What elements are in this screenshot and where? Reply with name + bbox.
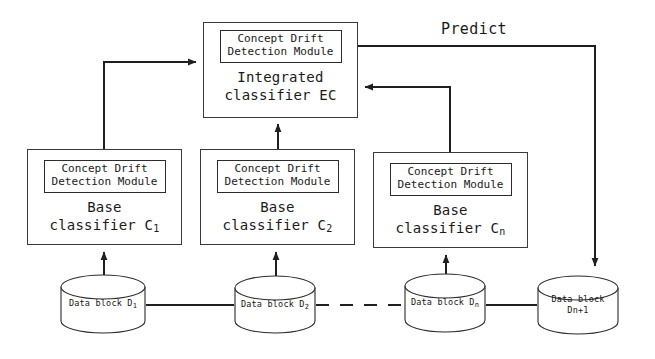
concept-drift-detection-module-c2: Concept Drift Detection Module — [217, 160, 339, 193]
edge-c1-to-ec — [104, 62, 196, 149]
data-block-text: Data block D — [241, 299, 305, 309]
data-block-dn-plus-1-label: Data block Dn+1 — [537, 294, 619, 315]
edge-cn-to-ec — [365, 87, 450, 152]
concept-drift-detection-module-cn: Concept Drift Detection Module — [390, 163, 512, 196]
module-line-2: Detection Module — [45, 176, 165, 189]
data-block-d2-cylinder[interactable]: Data block D2 — [234, 276, 316, 334]
data-block-d2-label: Data block D2 — [234, 299, 316, 310]
base-classifier-c1-caption: Base classifier C1 — [50, 198, 160, 235]
data-block-dn-cylinder[interactable]: Data block Dn — [404, 274, 486, 334]
base-classifier-cn-box[interactable]: Concept Drift Detection Module Base clas… — [373, 152, 528, 248]
caption-text: classifier C — [50, 217, 154, 233]
base-classifier-cn-caption: Base classifier Cn — [396, 201, 506, 238]
classifier-subscript: n — [499, 226, 505, 237]
data-block-text: Data block D — [411, 297, 475, 307]
module-line-2: Detection Module — [391, 179, 511, 192]
caption-line-2: classifier C1 — [50, 216, 160, 234]
data-block-text-2: Dn+1 — [537, 305, 619, 316]
concept-drift-detection-module-c1: Concept Drift Detection Module — [44, 160, 166, 193]
predict-edge-label: Predict — [441, 20, 507, 38]
data-block-text: Data block D — [69, 298, 133, 308]
data-block-dn-label: Data block Dn — [404, 297, 486, 308]
caption-text: classifier C — [223, 217, 327, 233]
caption-text: classifier C — [396, 220, 500, 236]
data-block-dn-plus-1-cylinder[interactable]: Data block Dn+1 — [537, 276, 619, 336]
base-classifier-c1-box[interactable]: Concept Drift Detection Module Base clas… — [27, 149, 182, 245]
data-block-d1-label: Data block D1 — [60, 298, 146, 309]
data-block-subscript: 2 — [305, 303, 309, 311]
integrated-classifier-caption: Integrated classifier EC — [224, 68, 336, 105]
caption-line-1: Integrated — [224, 68, 336, 86]
concept-drift-detection-module-ec: Concept Drift Detection Module — [220, 30, 342, 63]
caption-line-1: Base — [396, 201, 506, 219]
data-block-subscript: n — [475, 301, 479, 309]
diagram-canvas: Predict Concept Drift Detection Module I… — [0, 0, 655, 359]
data-block-subscript: 1 — [133, 302, 137, 310]
classifier-subscript: 2 — [326, 223, 332, 234]
data-block-text: Data block — [537, 294, 619, 305]
caption-line-2: classifier Cn — [396, 219, 506, 237]
classifier-subscript: 1 — [153, 223, 159, 234]
base-classifier-c2-caption: Base classifier C2 — [223, 198, 333, 235]
base-classifier-c2-box[interactable]: Concept Drift Detection Module Base clas… — [200, 149, 355, 245]
caption-line-1: Base — [223, 198, 333, 216]
data-block-d1-cylinder[interactable]: Data block D1 — [60, 274, 146, 334]
module-line-2: Detection Module — [221, 46, 341, 59]
integrated-classifier-box[interactable]: Concept Drift Detection Module Integrate… — [203, 22, 358, 118]
module-line-2: Detection Module — [218, 176, 338, 189]
caption-line-1: Base — [50, 198, 160, 216]
caption-line-2: classifier C2 — [223, 216, 333, 234]
caption-line-2: classifier EC — [224, 86, 336, 104]
